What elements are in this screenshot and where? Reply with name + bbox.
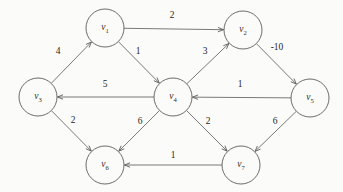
edge-weight-label: 2 bbox=[71, 115, 76, 125]
graph-node-v7[interactable]: v7 bbox=[222, 146, 260, 184]
graph-edge bbox=[192, 95, 291, 99]
edge-weight-label: 5 bbox=[103, 79, 108, 89]
graph-node-v5[interactable]: v5 bbox=[291, 79, 329, 117]
graph-node-v2[interactable]: v2 bbox=[224, 11, 262, 49]
edge-weight-label: 1 bbox=[171, 150, 176, 160]
graph-edge bbox=[58, 95, 155, 99]
edge-weight-label: 1 bbox=[136, 46, 141, 56]
edge-line bbox=[124, 28, 224, 29]
graph-edge bbox=[125, 163, 223, 167]
graph-node-v3[interactable]: v3 bbox=[19, 78, 57, 116]
edge-weight-label: 4 bbox=[56, 46, 61, 56]
edge-weight-label: 6 bbox=[273, 116, 278, 126]
edge-weight-label: 3 bbox=[203, 46, 208, 56]
graph-node-v1[interactable]: v1 bbox=[86, 9, 124, 47]
edge-weight-label: 2 bbox=[206, 116, 211, 126]
edge-line bbox=[192, 97, 291, 98]
edge-weight-label: 2 bbox=[170, 10, 175, 20]
edge-weight-label: 6 bbox=[138, 116, 143, 126]
graph-figure: v1v2v3v4v5v6v7 2413-105126261 bbox=[0, 0, 343, 192]
graph-edge bbox=[187, 43, 229, 83]
graph-node-v4[interactable]: v4 bbox=[154, 78, 192, 116]
edge-weight-label: 1 bbox=[238, 79, 243, 89]
graph-node-v6[interactable]: v6 bbox=[86, 146, 124, 184]
edge-weight-label: -10 bbox=[271, 42, 284, 52]
edge-line bbox=[187, 43, 229, 83]
graph-edge bbox=[124, 28, 224, 32]
graph-canvas: v1v2v3v4v5v6v7 2413-105126261 bbox=[0, 0, 343, 192]
